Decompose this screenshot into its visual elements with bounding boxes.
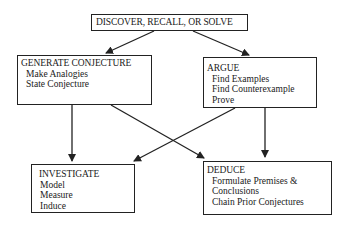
arrow-top-to-argue <box>193 31 249 55</box>
node-item: Induce <box>35 201 131 212</box>
node-title: DISCOVER, RECALL, OR SOLVE <box>96 17 243 28</box>
node-item: Prove <box>207 95 313 106</box>
node-item: Conclusions <box>207 186 328 197</box>
node-item: Chain Prior Conjectures <box>207 197 328 208</box>
node-deduce: DEDUCE Formulate Premises & Conclusions … <box>203 161 332 215</box>
arrow-argue-to-investigate <box>134 108 235 161</box>
node-title: ARGUE <box>207 63 313 74</box>
node-item: Formulate Premises & <box>207 176 328 187</box>
node-item: Find Counterexample <box>207 84 313 95</box>
node-item: Find Examples <box>207 74 313 85</box>
node-item: State Conjecture <box>21 79 148 90</box>
node-investigate: INVESTIGATE Model Measure Induce <box>31 164 135 213</box>
node-item: Measure <box>35 190 131 201</box>
node-title: DEDUCE <box>207 165 328 176</box>
node-title: INVESTIGATE <box>35 169 131 180</box>
node-generate-conjecture: GENERATE CONJECTURE Make Analogies State… <box>17 55 152 105</box>
node-item: Model <box>35 180 131 191</box>
node-argue: ARGUE Find Examples Find Counterexample … <box>203 57 317 108</box>
arrow-top-to-generate <box>106 31 154 53</box>
node-discover-recall-solve: DISCOVER, RECALL, OR SOLVE <box>91 14 248 31</box>
node-item: Make Analogies <box>21 69 148 80</box>
node-title: GENERATE CONJECTURE <box>21 58 148 69</box>
